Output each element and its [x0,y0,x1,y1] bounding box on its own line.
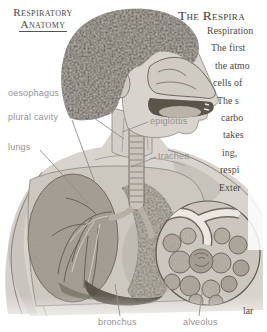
page-header: Respiratory Anatomy [3,6,83,32]
page-header-line1: Respiratory [3,6,83,18]
article-line: respi [220,164,240,175]
article-line: The first [211,42,245,53]
label-plural-cavity: plural cavity [8,112,58,122]
article-title: The Respira [178,8,245,24]
head [61,9,218,138]
article-line: ing, [222,147,237,158]
article-line: carbo [221,112,243,123]
book-page: Respiratory Anatomy The Respira Respirat… [0,0,267,332]
article-line: cells of [213,77,242,88]
label-bronchus: bronchus [98,317,137,327]
label-trachea: trachea [158,151,189,161]
article-line: takes [223,129,244,140]
nasal-cavity [148,57,216,98]
label-alveolus: alveolus [183,317,218,327]
label-oesophagus: oesophagus [8,88,59,98]
label-epiglottis: epiglottis [150,116,188,126]
page-header-line2: Anatomy [19,18,68,32]
article-line: the atmo [215,60,250,71]
article-line: Exter [219,182,241,193]
article-line: Respiration [207,25,253,36]
label-lungs: lungs [8,142,31,152]
article-partial-text: lar [243,305,253,316]
article-line: The s [217,95,239,106]
